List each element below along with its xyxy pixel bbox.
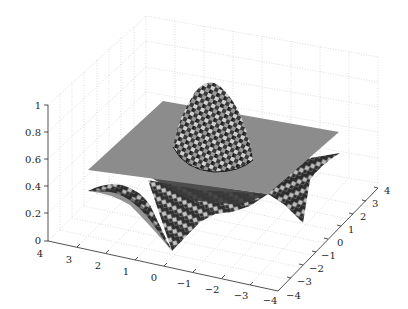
y-tick-label: 4 [384,185,390,196]
surface-plot-figure: 0 0.2 0.4 0.6 0.8 1 4 3 2 1 0 −1 −2 −3 −… [0,0,408,309]
x-axis [48,241,278,291]
y-tick-label: −4 [286,290,301,301]
z-tick-label: 0.4 [25,181,41,192]
z-tick-label: 1 [35,100,41,111]
x-tick-label: 2 [95,260,101,271]
z-tick-label: 0 [35,235,41,246]
x-tick-label: 4 [37,248,43,259]
x-tick-label: 1 [123,266,129,277]
y-tick-label: 3 [372,198,378,209]
x-tick-label: 3 [66,254,72,265]
x-tick-label: −1 [177,278,192,289]
y-tick-label: −2 [309,263,324,274]
y-tick-label: −1 [321,250,336,261]
x-tick-label: −3 [234,290,249,301]
surface-peak [173,82,253,172]
z-tick-label: 0.2 [25,208,41,219]
x-tick-label: 0 [151,272,157,283]
z-tick-labels: 0 0.2 0.4 0.6 0.8 1 [25,100,41,246]
z-tick-label: 0.8 [25,127,41,138]
z-tick-label: 0.6 [25,154,41,165]
x-tick-label: −4 [263,295,278,306]
x-tick-labels: 4 3 2 1 0 −1 −2 −3 −4 [37,248,278,306]
y-tick-label: 0 [337,237,343,248]
x-tick-label: −2 [205,284,220,295]
y-tick-label: 2 [360,211,366,222]
y-tick-label: 1 [348,224,354,235]
y-tick-label: −3 [297,276,312,287]
